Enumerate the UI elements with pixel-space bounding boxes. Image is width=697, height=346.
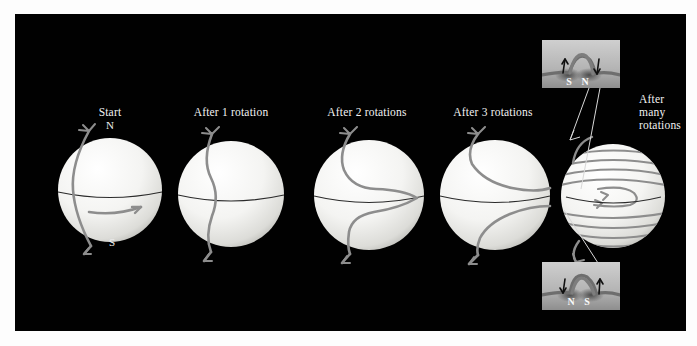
inset-bottom-polarity-left: N — [567, 296, 575, 307]
figure-panel: Start N S Af — [15, 14, 686, 331]
inset-top: S N — [542, 40, 620, 88]
solar-field-winding-figure: Start N S Af — [0, 0, 697, 346]
inset-bottom-polarity-right: S — [584, 296, 590, 307]
inset-top-polarity-right: N — [581, 76, 589, 87]
inset-bottom: N S — [542, 262, 620, 310]
inset-top-polarity-left: S — [566, 76, 572, 87]
